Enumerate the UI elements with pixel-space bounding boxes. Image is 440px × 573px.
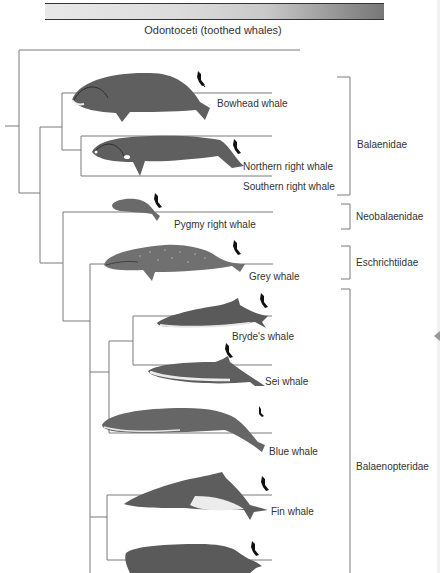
species-label-bowhead: Bowhead whale <box>217 98 288 109</box>
bracket-balaenidae <box>337 77 350 195</box>
diver-icon <box>233 240 241 255</box>
species-label-grey: Grey whale <box>249 271 300 282</box>
species-label-northern-right: Northern right whale <box>243 161 333 172</box>
species-label-brydes: Bryde's whale <box>232 331 294 342</box>
diver-icon <box>259 406 264 417</box>
diver-icon <box>260 293 268 308</box>
whale-illustration-sei-whale <box>148 356 265 386</box>
whale-illustration-blue-whale <box>102 408 265 452</box>
diver-icon <box>225 343 233 358</box>
bracket-eschrichtiidae <box>341 246 350 279</box>
whale-illustration-bowhead <box>72 73 210 122</box>
bracket-balaenopteridae <box>341 289 350 573</box>
family-label-neobalaenidae: Neobalaenidae <box>356 211 423 222</box>
diver-icon <box>154 193 162 208</box>
diver-icon <box>233 139 241 154</box>
bracket-neobalaenidae <box>341 204 350 229</box>
whale-illustration-right-whale <box>92 136 244 176</box>
family-label-balaenopteridae: Balaenopteridae <box>356 461 429 472</box>
whale-illustration-pygmy-right-whale <box>112 199 160 221</box>
whale-illustration-grey-whale <box>104 245 245 281</box>
diver-icon <box>261 476 269 491</box>
whale-illustration-partial-whale <box>125 544 262 573</box>
family-label-balaenidae: Balaenidae <box>357 139 407 150</box>
whale-illustration-fin-whale <box>124 472 268 520</box>
species-label-blue: Blue whale <box>269 446 318 457</box>
species-label-sei: Sei whale <box>265 376 308 387</box>
species-label-fin: Fin whale <box>271 506 314 517</box>
previous-page-arrow-icon[interactable] <box>434 331 440 341</box>
phylogenetic-tree <box>0 0 440 573</box>
diver-icon <box>251 541 259 556</box>
species-label-southern-right: Southern right whale <box>243 181 335 192</box>
family-label-eschrichtiidae: Eschrichtiidae <box>356 257 418 268</box>
family-brackets <box>337 77 350 573</box>
whale-illustration-brydes-whale <box>157 298 268 328</box>
diver-icon <box>197 71 205 87</box>
species-label-pygmy-right: Pygmy right whale <box>174 219 256 230</box>
